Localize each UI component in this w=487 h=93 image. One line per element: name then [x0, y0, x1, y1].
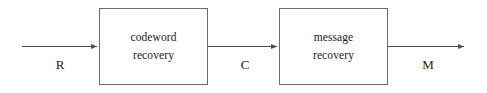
diagram-connectors [0, 0, 487, 93]
signal-flow-diagram: codeword recovery message recovery R C M [0, 0, 487, 93]
block-codeword-recovery: codeword recovery [99, 8, 208, 85]
block-codeword-recovery-line1: codeword [130, 29, 176, 47]
signal-label-input: R [45, 57, 75, 73]
block-codeword-recovery-line2: recovery [133, 47, 174, 65]
block-message-recovery-line2: recovery [313, 47, 354, 65]
signal-label-output: M [413, 57, 443, 73]
block-message-recovery: message recovery [279, 8, 388, 85]
signal-label-intermediate: C [230, 57, 260, 73]
block-message-recovery-line1: message [314, 29, 354, 47]
